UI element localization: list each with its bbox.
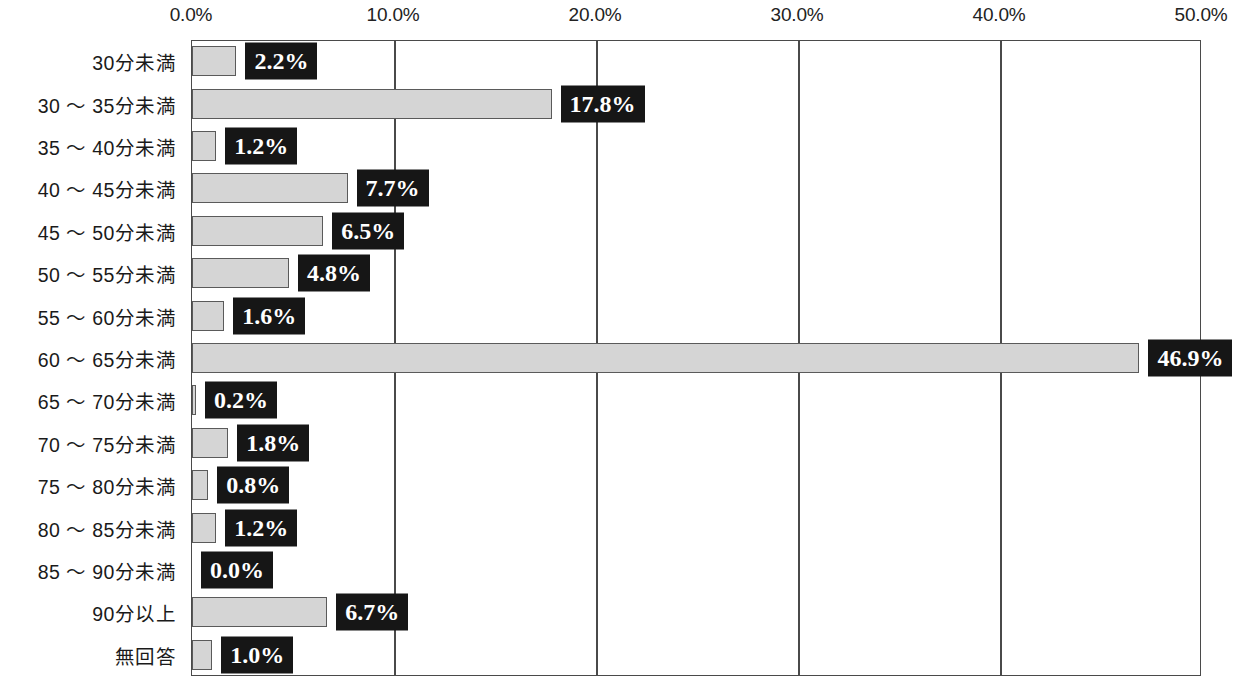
- bar-row: 90分以上6.7%: [0, 591, 1240, 633]
- x-axis-tick-label: 0.0%: [170, 4, 213, 26]
- bar: [192, 46, 236, 76]
- bar-row: 35 〜 40分未満1.2%: [0, 125, 1240, 167]
- bar-row: 70 〜 75分未満1.8%: [0, 422, 1240, 464]
- value-label: 6.5%: [332, 212, 404, 249]
- bar-row: 40 〜 45分未満7.7%: [0, 167, 1240, 209]
- x-axis-tick-label: 20.0%: [569, 4, 622, 26]
- bar: [192, 258, 289, 288]
- value-label: 1.2%: [225, 509, 297, 546]
- bar: [192, 173, 348, 203]
- bar-row: 80 〜 85分未満1.2%: [0, 506, 1240, 548]
- value-label: 6.7%: [336, 594, 408, 631]
- x-axis-tick-label: 30.0%: [771, 4, 824, 26]
- value-label: 0.0%: [201, 551, 273, 588]
- category-label: 85 〜 90分未満: [0, 555, 176, 584]
- category-label: 45 〜 50分未満: [0, 216, 176, 245]
- bar-row: 85 〜 90分未満0.0%: [0, 549, 1240, 591]
- x-axis-tick-label: 40.0%: [973, 4, 1026, 26]
- category-label: 60 〜 65分未満: [0, 343, 176, 372]
- bar-row: 無回答1.0%: [0, 634, 1240, 676]
- value-label: 1.0%: [221, 636, 293, 673]
- value-label: 2.2%: [245, 43, 317, 80]
- category-label: 30 〜 35分未満: [0, 89, 176, 118]
- bar-rows: 30分未満2.2%30 〜 35分未満17.8%35 〜 40分未満1.2%40…: [0, 40, 1240, 676]
- bar: [192, 640, 212, 670]
- bar-row: 65 〜 70分未満0.2%: [0, 379, 1240, 421]
- value-label: 0.8%: [217, 467, 289, 504]
- category-label: 70 〜 75分未満: [0, 428, 176, 457]
- category-label: 35 〜 40分未満: [0, 131, 176, 160]
- bar: [192, 301, 224, 331]
- bar-row: 75 〜 80分未満0.8%: [0, 464, 1240, 506]
- bar: [192, 89, 552, 119]
- category-label: 80 〜 85分未満: [0, 513, 176, 542]
- bar: [192, 470, 208, 500]
- bar: [192, 131, 216, 161]
- bar-row: 45 〜 50分未満6.5%: [0, 210, 1240, 252]
- bar: [192, 216, 323, 246]
- bar-chart: 0.0%10.0%20.0%30.0%40.0%50.0% 30分未満2.2%3…: [0, 0, 1240, 696]
- x-axis-tick-label: 50.0%: [1175, 4, 1228, 26]
- category-label: 30分未満: [0, 47, 176, 76]
- category-label: 90分以上: [0, 598, 176, 627]
- bar: [192, 343, 1139, 373]
- value-label: 46.9%: [1148, 339, 1232, 376]
- bar: [192, 513, 216, 543]
- bar: [192, 428, 228, 458]
- category-label: 55 〜 60分未満: [0, 301, 176, 330]
- value-label: 0.2%: [205, 382, 277, 419]
- bar: [192, 597, 327, 627]
- category-label: 65 〜 70分未満: [0, 386, 176, 415]
- value-label: 1.6%: [233, 297, 305, 334]
- value-label: 17.8%: [561, 85, 645, 122]
- value-label: 1.2%: [225, 127, 297, 164]
- category-label: 無回答: [0, 640, 176, 669]
- category-label: 75 〜 80分未満: [0, 471, 176, 500]
- bar-row: 55 〜 60分未満1.6%: [0, 294, 1240, 336]
- x-axis-tick-labels: 0.0%10.0%20.0%30.0%40.0%50.0%: [0, 0, 1240, 40]
- value-label: 7.7%: [357, 170, 429, 207]
- category-label: 40 〜 45分未満: [0, 174, 176, 203]
- value-label: 1.8%: [237, 424, 309, 461]
- value-label: 4.8%: [298, 255, 370, 292]
- x-axis-tick-label: 10.0%: [367, 4, 420, 26]
- bar-row: 30 〜 35分未満17.8%: [0, 82, 1240, 124]
- bar-row: 50 〜 55分未満4.8%: [0, 252, 1240, 294]
- bar-row: 30分未満2.2%: [0, 40, 1240, 82]
- category-label: 50 〜 55分未満: [0, 259, 176, 288]
- bar: [192, 385, 196, 415]
- bar-row: 60 〜 65分未満46.9%: [0, 337, 1240, 379]
